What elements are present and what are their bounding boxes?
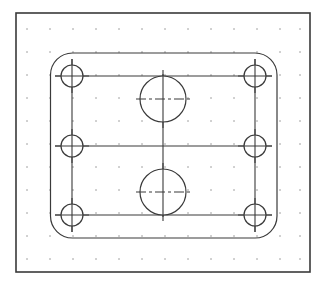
cad-drawing-canvas[interactable] — [0, 0, 326, 288]
cad-drawing-svg[interactable] — [0, 0, 326, 288]
